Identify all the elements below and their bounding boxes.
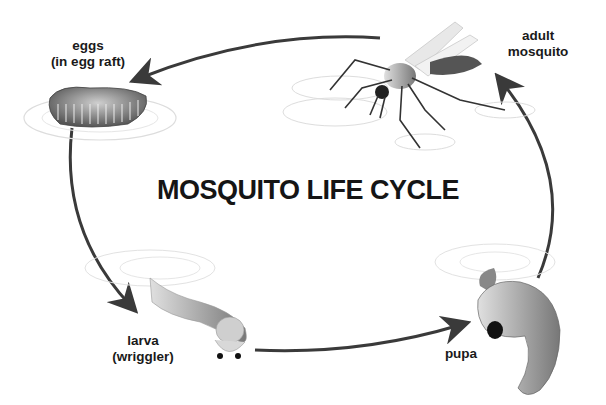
adult-label-line2: mosquito (488, 44, 588, 60)
stage-label-pupa: pupa (436, 346, 486, 362)
pupa-label-line1: pupa (436, 346, 486, 362)
life-cycle-diagram: eggs (in egg raft) adult mosquito larva … (0, 0, 606, 405)
stage-label-eggs: eggs (in egg raft) (28, 38, 148, 70)
larva-label-line2: (wriggler) (100, 349, 186, 365)
arrow-adult-to-eggs (140, 37, 380, 78)
eggs-label-line1: eggs (28, 38, 148, 54)
stage-label-larva: larva (wriggler) (100, 333, 186, 365)
arrow-eggs-to-larva (70, 128, 130, 305)
larva-label-line1: larva (100, 333, 186, 349)
arrow-larva-to-pupa (255, 325, 460, 351)
arrow-pupa-to-adult (502, 82, 553, 278)
stage-label-adult: adult mosquito (488, 28, 588, 60)
adult-label-line1: adult (488, 28, 588, 44)
egg-raft-illustration (24, 87, 176, 140)
eggs-label-line2: (in egg raft) (28, 54, 148, 70)
diagram-title: MOSQUITO LIFE CYCLE (148, 175, 468, 206)
